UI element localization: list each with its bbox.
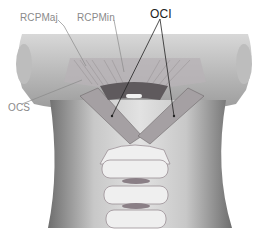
label-rcpmaj: RCPMaj [20,12,58,23]
neck-illustration [0,0,267,234]
label-oci: OCI [150,7,172,21]
anatomy-figure: RCPMaj RCPMin OCI OCS [0,0,267,234]
left-ear [16,44,32,84]
cervical-vertebrae [100,145,170,228]
right-ear [236,44,252,84]
atlas-tubercle [126,94,142,98]
label-ocs: OCS [8,102,30,113]
label-rcpmin: RCPMin [77,12,115,23]
